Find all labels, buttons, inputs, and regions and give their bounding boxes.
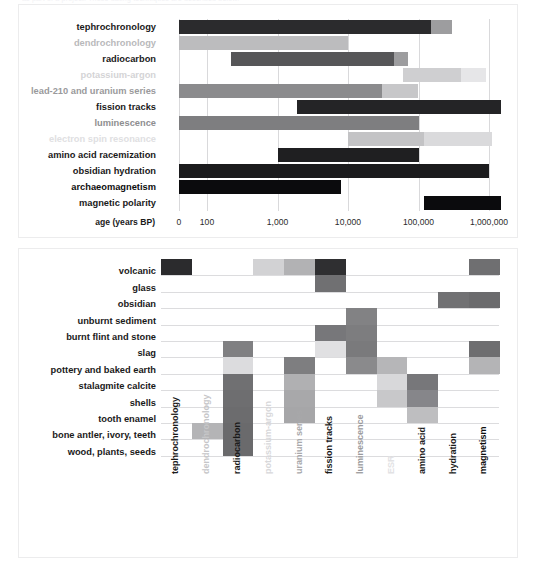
matrix-cell [253, 259, 284, 275]
range-bar-segment [278, 148, 419, 162]
matrix-row-label: obsidian [0, 299, 156, 309]
matrix-row-gridline [161, 407, 499, 408]
matrix-cell [315, 259, 346, 275]
matrix-row-label: wood, plants, seeds [0, 447, 156, 457]
range-bar-segment [179, 116, 419, 130]
matrix-cell [469, 292, 500, 308]
range-chart-row-label: amino acid racemization [0, 150, 156, 160]
matrix-cell [346, 325, 377, 341]
range-bar-segment [424, 132, 492, 146]
matrix-cell [407, 390, 438, 406]
matrix-row-gridline [161, 390, 499, 391]
range-chart-gridline [489, 19, 490, 211]
range-chart-gridline [419, 19, 420, 211]
matrix-row-label: unburnt sediment [0, 316, 156, 326]
range-chart-row-label: lead-210 and uranium series [0, 86, 156, 96]
matrix-cell [284, 390, 315, 406]
matrix-cell [315, 341, 346, 357]
material-method-matrix-chart: volcanicglassobsidianunburnt sedimentbur… [19, 249, 519, 559]
matrix-cell [438, 292, 469, 308]
matrix-cell [407, 374, 438, 390]
range-chart-row-label: magnetic polarity [0, 198, 156, 208]
matrix-row-label: stalagmite calcite [0, 381, 156, 391]
matrix-cell [407, 407, 438, 423]
range-chart-row-label: obsidian hydration [0, 166, 156, 176]
matrix-column-label: tephrochronology [171, 397, 180, 474]
range-chart-axis-title: age (years BP) [59, 217, 155, 227]
range-bar-segment [231, 52, 394, 66]
matrix-cell [377, 390, 408, 406]
matrix-cell [469, 259, 500, 275]
range-bar-segment [403, 68, 461, 82]
matrix-cell [223, 407, 254, 423]
range-bar-segment [179, 20, 431, 34]
matrix-row-label: bone antler, ivory, teeth [0, 430, 156, 440]
range-bar-segment [179, 180, 341, 194]
range-bar-segment [297, 100, 501, 114]
matrix-column-label: hydration [449, 433, 458, 474]
range-chart-row-label: potassium-argon [0, 70, 156, 80]
matrix-column-label: ESR [387, 455, 396, 474]
range-chart-tick-label: 0 [177, 217, 182, 227]
range-chart-tick-label: 10,000 [335, 217, 361, 227]
range-bar-segment [348, 132, 424, 146]
range-chart-panel: tephrochronologydendrochronologyradiocar… [18, 4, 518, 238]
matrix-row-label: slag [0, 348, 156, 358]
matrix-row-gridline [161, 374, 499, 375]
matrix-cell [315, 325, 346, 341]
matrix-row-label: glass [0, 283, 156, 293]
range-bar-segment [431, 20, 452, 34]
matrix-cell [377, 357, 408, 373]
range-chart-tick-label: 1,000 [267, 217, 289, 227]
range-bar-segment [179, 84, 382, 98]
range-chart-gridline [348, 19, 349, 211]
matrix-cell [469, 357, 500, 373]
range-bar-segment [394, 52, 408, 66]
matrix-row-gridline [161, 357, 499, 358]
range-chart-tick-label: 1,000,000 [470, 217, 508, 227]
range-chart-row-label: radiocarbon [0, 54, 156, 64]
matrix-row-gridline [161, 308, 499, 309]
range-chart-row-label: tephrochronology [0, 22, 156, 32]
matrix-row-label: burnt flint and stone [0, 332, 156, 342]
matrix-cell [346, 341, 377, 357]
range-chart-row-label: fission tracks [0, 102, 156, 112]
dating-methods-range-chart: tephrochronologydendrochronologyradiocar… [19, 5, 519, 239]
matrix-cell [223, 390, 254, 406]
range-chart-row-label: electron spin resonance [0, 134, 156, 144]
matrix-cell [223, 374, 254, 390]
matrix-cell [284, 374, 315, 390]
matrix-column-label: fission tracks [325, 416, 334, 474]
range-bar-segment [179, 164, 489, 178]
matrix-cell [346, 357, 377, 373]
matrix-row-label: shells [0, 398, 156, 408]
matrix-column-label: dendrochronology [202, 395, 211, 475]
range-bar-segment [382, 84, 419, 98]
matrix-cell [284, 357, 315, 373]
matrix-cell [377, 374, 408, 390]
matrix-cell [346, 308, 377, 324]
matrix-row-label: tooth enamel [0, 414, 156, 424]
range-chart-tick-label: 100 [200, 217, 214, 227]
matrix-cell [161, 259, 192, 275]
range-chart-row-label: archaeomagnetism [0, 182, 156, 192]
range-bar-segment [424, 196, 501, 210]
range-chart-row-label: luminescence [0, 118, 156, 128]
figure-page: as part of a project. These dating techn… [0, 0, 533, 561]
matrix-column-label: amino acid [418, 427, 427, 474]
range-chart-row-label: dendrochronology [0, 38, 156, 48]
matrix-column-label: radiocarbon [233, 422, 242, 474]
matrix-cell [315, 275, 346, 291]
matrix-row-label: pottery and baked earth [0, 365, 156, 375]
matrix-cell [223, 341, 254, 357]
matrix-row-label: volcanic [0, 266, 156, 276]
matrix-column-label: magnetism [479, 426, 488, 474]
material-method-matrix-panel: volcanicglassobsidianunburnt sedimentbur… [18, 248, 518, 558]
range-bar-segment [179, 36, 348, 50]
range-chart-tick-label: 100,000 [403, 217, 434, 227]
matrix-column-label: uranium series [295, 410, 304, 474]
matrix-column-label: luminescence [356, 414, 365, 474]
matrix-cell [284, 259, 315, 275]
range-chart-plot-area [161, 19, 491, 211]
matrix-cell [223, 357, 254, 373]
